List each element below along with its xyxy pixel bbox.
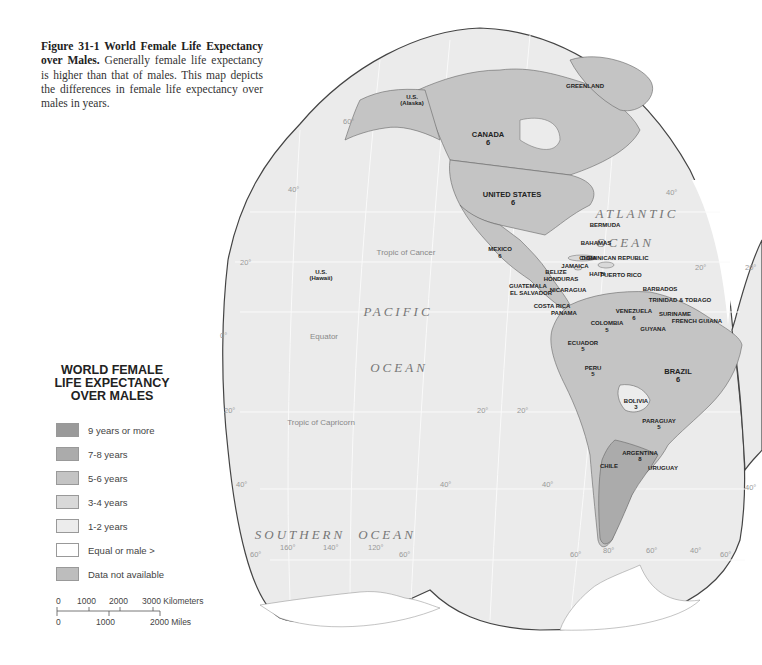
legend-swatch (56, 567, 79, 581)
grat-label: 60° (720, 550, 731, 559)
country-sublabel: (Hawaii) (309, 275, 332, 281)
legend-label: Equal or male > (88, 545, 155, 556)
legend-label: 5-6 years (88, 473, 128, 484)
legend-item-7-8: 7-8 years (56, 442, 164, 466)
grat-label: 20° (745, 263, 756, 272)
legend: 9 years or more 7-8 years 5-6 years 3-4 … (56, 418, 164, 586)
legend-swatch (56, 519, 79, 533)
grat-label: 40° (666, 188, 677, 197)
legend-item-equal: Equal or male > (56, 538, 164, 562)
grat-label: 20° (240, 258, 251, 267)
legend-title: WORLD FEMALE LIFE EXPECTANCY OVER MALES (42, 364, 182, 403)
country-label: EL SALVADOR (510, 290, 553, 296)
country-value: 6 (486, 138, 490, 147)
country-label: BAHAMAS (581, 240, 612, 246)
legend-swatch (56, 543, 79, 557)
scale-mile-tick: 0 (56, 617, 61, 627)
scale-mile-tick: 1000 (96, 617, 115, 627)
country-label: BARBADOS (643, 286, 678, 292)
pacific-ocean-label: PACIFIC (362, 304, 432, 319)
legend-label: 3-4 years (88, 497, 128, 508)
country-label: HONDURAS (544, 276, 579, 282)
legend-label: 1-2 years (88, 521, 128, 532)
country-label: PANAMA (551, 310, 578, 316)
scale-km-tick: 0 (56, 596, 61, 606)
grat-label: 40° (440, 480, 451, 489)
grat-label: 40° (288, 185, 299, 194)
grat-label: 140° (323, 543, 339, 552)
country-label: FRENCH GUIANA (672, 318, 723, 324)
country-label: PUERTO RICO (600, 272, 642, 278)
legend-swatch (56, 423, 79, 437)
scale-km-tick: 2000 (109, 596, 128, 606)
country-sublabel: (Alaska) (400, 100, 423, 106)
grat-label: 60° (399, 550, 410, 559)
southern-ocean-label-2: OCEAN (358, 527, 416, 542)
legend-item-no-data: Data not available (56, 562, 164, 586)
scale-km-tick: 1000 (77, 596, 96, 606)
country-label: SURINAME (659, 311, 691, 317)
country-label: GUYANA (640, 326, 666, 332)
grat-label: 40° (542, 480, 553, 489)
grat-label: 160° (280, 543, 296, 552)
grat-label: 20° (477, 406, 488, 415)
grat-label: 60° (570, 550, 581, 559)
grat-label: 20° (695, 263, 706, 272)
country-label: NICARAGUA (550, 287, 587, 293)
country-label: URUGUAY (648, 465, 678, 471)
legend-label: Data not available (88, 569, 164, 580)
scale-bar-lines (56, 607, 196, 617)
legend-swatch (56, 471, 79, 485)
pacific-ocean-label-2: OCEAN (370, 360, 428, 375)
country-value: 6 (676, 375, 680, 384)
legend-item-3-4: 3-4 years (56, 490, 164, 514)
legend-item-1-2: 1-2 years (56, 514, 164, 538)
country-label: BERMUDA (590, 222, 621, 228)
grat-label: 20° (224, 406, 235, 415)
equator-label: Equator (310, 332, 338, 341)
legend-swatch (56, 447, 79, 461)
grat-label: 40° (236, 480, 247, 489)
grat-label: 0° (220, 331, 227, 340)
country-label: GUATEMALA (509, 283, 548, 289)
country-label: COLOMBIA (591, 320, 624, 326)
legend-item-5-6: 5-6 years (56, 466, 164, 490)
scale-km-tick: 3000 Kilometers (142, 596, 203, 606)
southern-ocean-label: SOUTHERN (255, 527, 345, 542)
legend-swatch (56, 495, 79, 509)
scale-mile-tick: 2000 Miles (150, 617, 191, 627)
tropic-of-cancer-label: Tropic of Cancer (377, 248, 436, 257)
scale-bar: 0 1000 2000 3000 Kilometers 0 1000 2000 … (56, 596, 216, 636)
country-label: BELIZE (545, 269, 566, 275)
grat-label: 60° (250, 550, 261, 559)
tropic-of-capricorn-label: Tropic of Capricorn (287, 418, 355, 427)
grat-label: 20° (517, 406, 528, 415)
grat-label: 80° (603, 546, 614, 555)
country-label: CHILE (600, 463, 618, 469)
legend-item-9-plus: 9 years or more (56, 418, 164, 442)
country-label: MEXICO (488, 246, 512, 252)
country-label: GREENLAND (566, 83, 605, 89)
country-label: TRINIDAD & TOBAGO (649, 297, 712, 303)
grat-label: 60° (343, 117, 354, 126)
country-label: VENEZUELA (616, 308, 653, 314)
grat-label: 40° (690, 546, 701, 555)
grat-label: 60° (646, 546, 657, 555)
country-value: 6 (511, 198, 515, 207)
atlantic-ocean-label: ATLANTIC (595, 206, 679, 221)
legend-label: 7-8 years (88, 449, 128, 460)
grat-label: 40° (745, 483, 756, 492)
grat-label: 120° (368, 543, 384, 552)
legend-title-line: OVER MALES (42, 390, 182, 403)
country-label: DOMINICAN REPUBLIC (582, 255, 650, 261)
country-label: COSTA RICA (534, 303, 571, 309)
legend-label: 9 years or more (88, 425, 155, 436)
